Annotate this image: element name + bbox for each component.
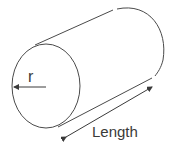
- cylinder-top-edge: [35, 10, 113, 45]
- radius-label: r: [28, 68, 34, 85]
- cylinder-back-arc: [117, 8, 164, 76]
- cylinder-diagram: r Length: [0, 0, 173, 149]
- cylinder-bottom-edge: [58, 78, 152, 127]
- cylinder-front-face: [12, 44, 80, 128]
- length-label: Length: [92, 123, 138, 140]
